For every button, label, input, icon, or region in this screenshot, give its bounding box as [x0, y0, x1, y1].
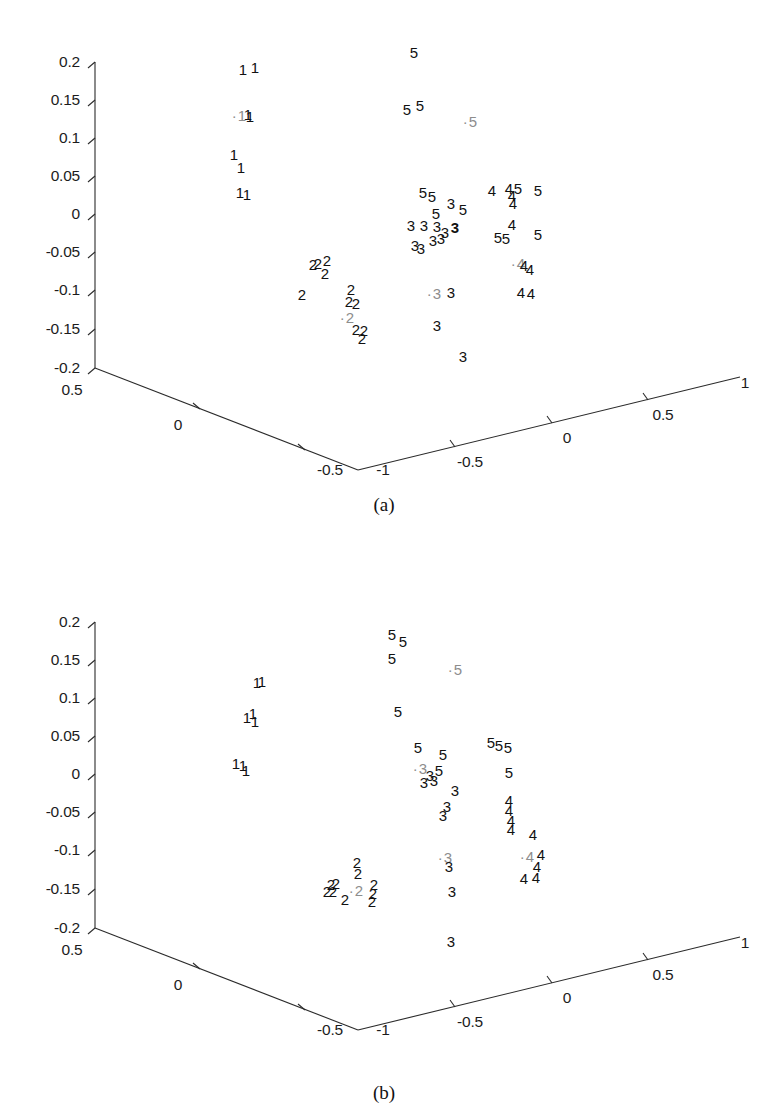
data-point-class-3: 3 [433, 318, 441, 333]
data-point-class-4: 4 [488, 183, 496, 198]
axes-frame-b [0, 560, 768, 1100]
data-point-class-1: 1 [251, 714, 259, 729]
data-point-class-3: 3 [437, 231, 445, 246]
data-point-class-2: 2 [349, 883, 363, 898]
data-point-class-5: 5 [534, 183, 542, 198]
data-point-class-2: 2 [358, 331, 366, 346]
data-point-class-5: 5 [419, 185, 427, 200]
x-left-tick-label: 0 [174, 417, 182, 433]
z-tick-label: 0.05 [51, 728, 80, 744]
data-point-class-4: 4 [527, 286, 535, 301]
data-point-class-3: 3 [447, 285, 455, 300]
data-point-class-4: 4 [520, 871, 528, 886]
data-point-class-1: 1 [258, 674, 266, 689]
x-right-tick-label: 0.5 [653, 967, 674, 983]
z-tick-label: -0.15 [46, 321, 80, 337]
data-point-class-1: 1 [251, 60, 259, 75]
data-point-class-5: 5 [534, 227, 542, 242]
z-tick-label: 0.15 [51, 92, 80, 108]
data-point-class-3: 3 [417, 241, 425, 256]
data-point-class-5: 5 [448, 662, 462, 677]
subfigure-caption-b: (b) [373, 1082, 395, 1104]
z-tick-label: 0 [72, 206, 80, 222]
x-left-tick-label: -0.5 [317, 1022, 343, 1038]
scatter-plot-panel-b: 0.2 0.15 0.1 0.05 0 -0.05 -0.1 -0.15 -0.… [0, 560, 768, 1100]
data-point-class-3: 3 [459, 349, 467, 364]
data-point-class-3: 3 [451, 220, 459, 235]
data-point-class-2: 2 [329, 884, 337, 899]
data-point-class-2: 2 [321, 266, 329, 281]
data-point-class-4: 4 [517, 285, 525, 300]
x-right-tick-label: -0.5 [457, 1014, 483, 1030]
data-point-class-3: 3 [448, 884, 456, 899]
data-point-class-5: 5 [414, 740, 422, 755]
x-right-tick-label: -1 [376, 1022, 389, 1038]
axes-frame-a [0, 0, 768, 540]
data-point-class-5: 5 [504, 740, 512, 755]
z-tick-label: 0 [72, 766, 80, 782]
data-point-class-4: 4 [526, 262, 534, 277]
z-tick-label: -0.15 [46, 881, 80, 897]
data-point-class-5: 5 [502, 231, 510, 246]
data-point-class-5: 5 [463, 114, 477, 129]
x-left-tick-label: 0.5 [62, 942, 83, 958]
x-right-tick-label: 0 [563, 990, 571, 1006]
data-point-class-3: 3 [430, 773, 438, 788]
data-point-class-1: 1 [246, 109, 254, 124]
x-right-tick-label: -1 [376, 462, 389, 478]
data-point-class-3: 3 [447, 196, 455, 211]
data-point-class-3: 3 [445, 859, 453, 874]
data-point-class-3: 3 [439, 808, 447, 823]
data-point-class-3: 3 [420, 218, 428, 233]
data-point-class-1: 1 [243, 187, 251, 202]
data-point-class-1: 1 [239, 62, 247, 77]
figure-container: 0.2 0.15 0.1 0.05 0 -0.05 -0.1 -0.15 -0.… [0, 0, 768, 1114]
data-point-class-3: 3 [451, 783, 459, 798]
z-tick-label: -0.05 [46, 244, 80, 260]
z-tick-label: -0.2 [54, 360, 80, 376]
data-point-class-4: 4 [532, 870, 540, 885]
data-point-class-5: 5 [410, 45, 418, 60]
z-tick-label: 0.05 [51, 168, 80, 184]
data-point-class-1: 1 [237, 160, 245, 175]
z-tick-label: 0.15 [51, 652, 80, 668]
data-point-class-4: 4 [529, 827, 537, 842]
x-right-tick-label: 1 [741, 375, 749, 391]
scatter-plot-panel-a: 0.2 0.15 0.1 0.05 0 -0.05 -0.1 -0.15 -0.… [0, 0, 768, 540]
data-point-class-1: 1 [242, 763, 250, 778]
data-point-class-5: 5 [394, 704, 402, 719]
data-point-class-5: 5 [459, 202, 467, 217]
subfigure-caption-a: (a) [373, 494, 394, 516]
data-point-class-5: 5 [399, 634, 407, 649]
data-point-class-5: 5 [416, 98, 424, 113]
x-left-tick-label: -0.5 [317, 462, 343, 478]
data-point-class-5: 5 [388, 627, 396, 642]
data-point-class-5: 5 [428, 189, 436, 204]
z-tick-label: -0.05 [46, 804, 80, 820]
z-tick-label: -0.1 [54, 842, 80, 858]
data-point-class-5: 5 [388, 651, 396, 666]
data-point-class-3: 3 [420, 775, 428, 790]
z-tick-label: 0.2 [59, 54, 80, 70]
z-tick-label: -0.2 [54, 920, 80, 936]
x-right-tick-label: 0.5 [653, 407, 674, 423]
data-point-class-4: 4 [507, 822, 515, 837]
z-tick-label: 0.2 [59, 614, 80, 630]
z-tick-label: -0.1 [54, 282, 80, 298]
data-point-class-2: 2 [354, 866, 362, 881]
data-point-class-5: 5 [403, 102, 411, 117]
data-point-class-5: 5 [505, 765, 513, 780]
z-tick-label: 0.1 [59, 690, 80, 706]
data-point-class-5: 5 [439, 747, 447, 762]
data-point-class-3: 3 [407, 218, 415, 233]
data-point-class-4: 4 [509, 196, 517, 211]
data-point-class-2: 2 [368, 894, 376, 909]
x-right-tick-label: -0.5 [457, 454, 483, 470]
x-right-tick-label: 1 [741, 935, 749, 951]
x-left-tick-label: 0 [174, 977, 182, 993]
data-point-class-2: 2 [298, 287, 306, 302]
data-point-class-3: 3 [427, 286, 441, 301]
data-point-class-4: 4 [508, 217, 516, 232]
z-tick-label: 0.1 [59, 130, 80, 146]
x-left-tick-label: 0.5 [62, 382, 83, 398]
